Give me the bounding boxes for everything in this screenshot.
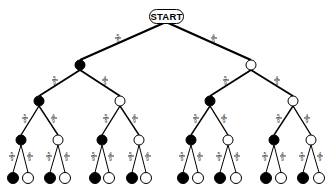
black-probability-label: 59 <box>91 151 97 160</box>
white-probability-label: 49 <box>197 151 203 160</box>
black-probability-label: 59 <box>216 151 222 160</box>
branch-edge <box>166 22 251 60</box>
white-probability-label: 49 <box>317 151 323 160</box>
white-ball-node <box>141 173 152 184</box>
black-ball-node <box>261 173 272 184</box>
white-probability-label: 49 <box>211 34 217 43</box>
white-ball-node <box>53 135 63 145</box>
branch-edge <box>39 70 80 96</box>
white-ball-node <box>231 173 242 184</box>
black-probability-label: 59 <box>276 113 282 122</box>
black-probability-label: 59 <box>128 151 134 160</box>
black-probability-label: 59 <box>193 113 199 122</box>
black-ball-node <box>45 173 56 184</box>
white-ball-node <box>23 173 34 184</box>
branch-edge <box>80 70 120 96</box>
black-probability-label: 59 <box>22 113 28 122</box>
black-probability-label: 59 <box>115 34 121 43</box>
white-probability-label: 49 <box>234 151 240 160</box>
white-probability-label: 49 <box>51 113 57 122</box>
white-ball-node <box>288 96 298 106</box>
black-probability-label: 59 <box>262 151 268 160</box>
white-probability-label: 49 <box>64 151 70 160</box>
white-probability-label: 49 <box>132 113 138 122</box>
branch-edge <box>251 70 293 96</box>
white-probability-label: 49 <box>108 151 114 160</box>
black-ball-node <box>298 173 309 184</box>
white-ball-node <box>104 173 115 184</box>
black-probability-label: 59 <box>9 151 15 160</box>
black-ball-node <box>8 173 19 184</box>
branch-edge <box>80 22 166 60</box>
white-ball-node <box>276 173 287 184</box>
white-ball-node <box>246 60 256 70</box>
black-ball-node <box>178 173 189 184</box>
probability-tree: START 5949594959495949594959495949594959… <box>0 0 334 192</box>
white-probability-label: 49 <box>27 151 33 160</box>
tree-edges-and-nodes <box>0 0 334 192</box>
white-probability-label: 49 <box>102 76 108 85</box>
white-probability-label: 49 <box>280 151 286 160</box>
black-probability-label: 59 <box>46 151 52 160</box>
black-probability-label: 59 <box>299 151 305 160</box>
black-ball-node <box>205 96 215 106</box>
black-ball-node <box>186 135 196 145</box>
black-probability-label: 59 <box>52 76 58 85</box>
white-probability-label: 49 <box>304 113 310 122</box>
white-probability-label: 49 <box>221 113 227 122</box>
white-ball-node <box>193 173 204 184</box>
start-node: START <box>149 9 184 24</box>
black-ball-node <box>75 60 85 70</box>
white-ball-node <box>134 135 144 145</box>
black-probability-label: 59 <box>103 113 109 122</box>
black-probability-label: 59 <box>223 76 229 85</box>
black-ball-node <box>16 135 26 145</box>
black-ball-node <box>97 135 107 145</box>
black-ball-node <box>34 96 44 106</box>
black-ball-node <box>269 135 279 145</box>
black-ball-node <box>127 173 138 184</box>
black-probability-label: 59 <box>179 151 185 160</box>
white-ball-node <box>60 173 71 184</box>
black-ball-node <box>215 173 226 184</box>
black-ball-node <box>90 173 101 184</box>
white-ball-node <box>223 135 233 145</box>
white-probability-label: 49 <box>274 76 280 85</box>
white-probability-label: 49 <box>145 151 151 160</box>
white-ball-node <box>306 135 316 145</box>
white-ball-node <box>314 173 325 184</box>
white-ball-node <box>115 96 125 106</box>
branch-edge <box>210 70 251 96</box>
